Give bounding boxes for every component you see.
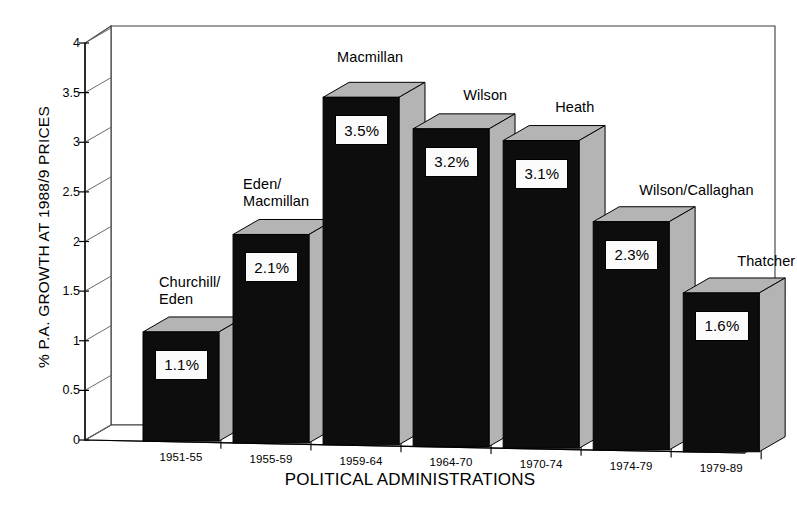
chart-canvas: % P.A. GROWTH AT 1988/9 PRICES 00.511.52… <box>0 0 797 512</box>
bar-category-name-label: Thatcher <box>737 253 797 270</box>
bar-side-face <box>759 278 785 452</box>
x-tick-label: 1979-89 <box>675 462 767 474</box>
bar-value-label: 1.6% <box>695 311 748 341</box>
x-axis-title: POLITICAL ADMINISTRATIONS <box>150 470 670 490</box>
bar-series: 1.1%Churchill/ Eden1951-552.1%Eden/ Macm… <box>0 0 797 512</box>
bar-column <box>0 0 797 512</box>
